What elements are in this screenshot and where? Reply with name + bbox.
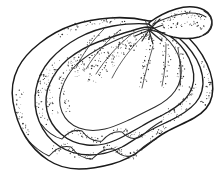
stipple-dot xyxy=(57,112,58,113)
stipple-dot xyxy=(47,101,48,102)
stipple-dot xyxy=(93,141,94,142)
stipple-dot xyxy=(97,51,98,52)
stipple-dot xyxy=(156,133,157,134)
stipple-dot xyxy=(77,76,78,77)
stipple-dot xyxy=(164,36,165,37)
stipple-dot xyxy=(91,40,92,41)
stipple-dot xyxy=(192,15,193,16)
stipple-dot xyxy=(179,65,180,66)
stipple-dot xyxy=(187,108,188,109)
stipple-dot xyxy=(180,71,181,72)
stipple-dot xyxy=(87,46,88,47)
stipple-dot xyxy=(46,124,47,125)
stipple-dot xyxy=(114,52,115,53)
stipple-dot xyxy=(92,66,93,67)
stipple-dot xyxy=(142,136,143,137)
stipple-dot xyxy=(130,42,131,43)
stipple-dot xyxy=(161,81,162,82)
stipple-dot xyxy=(103,147,104,148)
stipple-dot xyxy=(117,129,118,130)
stipple-dot xyxy=(63,144,64,145)
stipple-dot xyxy=(149,36,150,37)
stipple-dot xyxy=(184,23,185,24)
stipple-dot xyxy=(136,155,137,156)
stipple-dot xyxy=(136,45,137,46)
stipple-dot xyxy=(176,39,177,40)
stipple-dot xyxy=(111,147,112,148)
stipple-dot xyxy=(181,106,182,107)
stipple-dot xyxy=(195,13,196,14)
stipple-dot xyxy=(153,48,154,49)
stipple-dot xyxy=(84,156,85,157)
stipple-dot xyxy=(91,65,92,66)
stipple-dot xyxy=(141,134,142,135)
stipple-dot xyxy=(177,23,178,24)
stipple-dot xyxy=(80,133,81,134)
stipple-dot xyxy=(63,93,64,94)
stipple-dot xyxy=(113,47,114,48)
stipple-dot xyxy=(112,133,113,134)
stipple-dot xyxy=(96,142,97,143)
stipple-dot xyxy=(72,69,73,70)
stipple-dot xyxy=(66,111,67,112)
stipple-dot xyxy=(82,134,83,135)
stipple-dot xyxy=(168,61,169,62)
stipple-dot xyxy=(43,74,44,75)
stipple-dot xyxy=(97,65,98,66)
stipple-dot xyxy=(74,68,75,69)
stipple-dot xyxy=(191,15,192,16)
stipple-dot xyxy=(100,142,101,143)
stipple-dot xyxy=(194,15,195,16)
stipple-dot xyxy=(70,132,71,133)
stipple-dot xyxy=(189,95,190,96)
stipple-dot xyxy=(145,56,146,57)
stipple-dot xyxy=(130,36,131,37)
stipple-dot xyxy=(100,49,101,50)
stipple-dot xyxy=(107,145,108,146)
shell-illustration-figure xyxy=(0,0,222,190)
stipple-dot xyxy=(148,34,149,35)
stipple-dot xyxy=(16,100,17,101)
stipple-dot xyxy=(99,75,100,76)
stipple-dot xyxy=(44,82,45,83)
stipple-dot xyxy=(143,38,144,39)
stipple-dot xyxy=(123,40,124,41)
stipple-dot xyxy=(38,90,39,91)
stipple-dot xyxy=(68,131,69,132)
stipple-dot xyxy=(70,153,71,154)
stipple-dot xyxy=(38,92,39,93)
stipple-dot xyxy=(135,43,136,44)
stipple-dot xyxy=(177,76,178,77)
stipple-dot xyxy=(204,77,205,78)
stipple-dot xyxy=(136,150,137,151)
stipple-dot xyxy=(186,14,187,15)
stipple-dot xyxy=(162,51,163,52)
stipple-dot xyxy=(141,36,142,37)
stipple-dot xyxy=(161,122,162,123)
stipple-dot xyxy=(71,29,72,30)
stipple-dot xyxy=(46,100,47,101)
stipple-dot xyxy=(139,134,140,135)
stipple-dot xyxy=(117,153,118,154)
stipple-dot xyxy=(68,132,69,133)
stipple-dot xyxy=(143,62,144,63)
stipple-dot xyxy=(206,98,207,99)
stipple-dot xyxy=(186,97,187,98)
stipple-dot xyxy=(173,19,174,20)
stipple-dot xyxy=(162,73,163,74)
stipple-dot xyxy=(163,68,165,70)
stipple-dot xyxy=(209,84,210,85)
stipple-dot xyxy=(131,45,132,46)
stipple-dot xyxy=(136,38,137,39)
stipple-dot xyxy=(77,131,78,132)
stipple-dot xyxy=(181,15,182,16)
stipple-dot xyxy=(127,157,128,158)
stipple-dot xyxy=(81,64,82,65)
stipple-dot xyxy=(95,65,96,66)
stipple-dot xyxy=(87,44,88,45)
stipple-dot xyxy=(47,119,48,120)
stipple-dot xyxy=(203,66,204,67)
stipple-dot xyxy=(126,130,127,131)
stipple-dot xyxy=(29,131,30,132)
stipple-dot xyxy=(69,111,70,112)
